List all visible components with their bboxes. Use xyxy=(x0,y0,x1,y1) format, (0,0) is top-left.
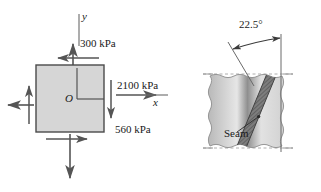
stress-shear-label: 560 kPa xyxy=(115,124,151,135)
stress-top-label: 300 kPa xyxy=(80,38,116,49)
angle-arc-22p5 xyxy=(233,38,280,49)
origin-label: O xyxy=(65,93,73,104)
angle-label: 22.5° xyxy=(239,19,263,30)
stress-element-graphics xyxy=(0,0,321,192)
stress-seam-figure: y 300 kPa O 2100 kPa x 560 kPa 22.5° Sea… xyxy=(0,0,321,192)
axis-x-label: x xyxy=(153,97,158,108)
stress-right-label: 2100 kPa xyxy=(117,80,158,91)
seam-label: Seam xyxy=(224,128,248,139)
axis-y-label: y xyxy=(82,11,87,22)
